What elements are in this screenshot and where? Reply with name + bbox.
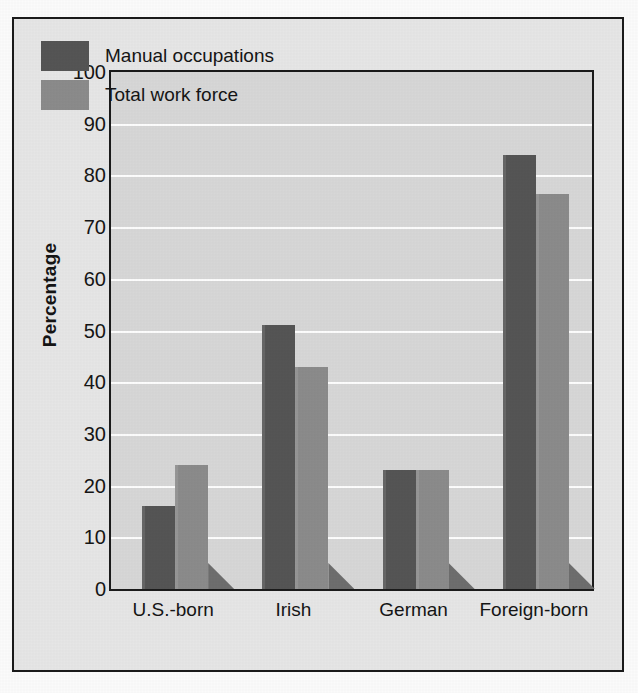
legend-swatch-manual [41,41,89,71]
bar-total[interactable] [536,194,569,590]
bars-layer [111,72,592,589]
y-tick-label: 80 [62,165,106,185]
legend-item[interactable]: Total work force [41,80,274,110]
bar-manual[interactable] [503,155,536,589]
bar-shadow [569,563,595,589]
bar-total[interactable] [295,367,328,589]
bar-shadow [208,563,234,589]
scanned-page: Percentage 1009080706050403020100 Manual… [0,0,638,693]
y-tick-label: 40 [62,372,106,392]
bar-total[interactable] [416,470,449,589]
y-tick-label: 20 [62,476,106,496]
bar-manual[interactable] [142,506,175,589]
figure-frame: Percentage 1009080706050403020100 Manual… [12,17,624,672]
bar-total[interactable] [175,465,208,589]
x-tick-label: Irish [275,599,311,621]
legend-label: Total work force [105,84,238,106]
x-tick-label: German [379,599,448,621]
y-tick-label: 0 [62,579,106,599]
x-tick-label: Foreign-born [479,599,588,621]
plot-area [109,70,594,591]
y-tick-label: 30 [62,424,106,444]
y-tick-label: 10 [62,527,106,547]
bar-manual[interactable] [262,325,295,589]
bar-manual[interactable] [383,470,416,589]
y-tick-label: 70 [62,217,106,237]
bar-shadow [449,563,475,589]
x-axis-ticks: U.S.-bornIrishGermanForeign-born [109,599,594,629]
legend-label: Manual occupations [105,45,274,67]
y-tick-label: 50 [62,321,106,341]
legend-item[interactable]: Manual occupations [41,41,274,71]
bar-shadow [328,563,354,589]
x-tick-label: U.S.-born [132,599,213,621]
chart-legend: Manual occupationsTotal work force [41,41,274,119]
legend-swatch-total [41,80,89,110]
y-tick-label: 60 [62,269,106,289]
